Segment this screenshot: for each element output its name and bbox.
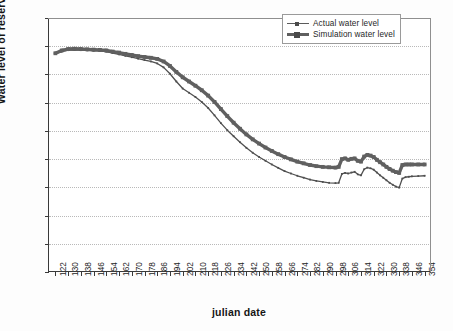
series-marker (360, 174, 362, 176)
series-marker (295, 160, 299, 164)
series-marker (238, 127, 242, 131)
x-tick-mark (221, 272, 222, 276)
series-marker (136, 54, 140, 58)
x-tick-mark (145, 272, 146, 276)
series-marker (181, 75, 185, 79)
x-tick-mark (272, 272, 273, 276)
series-marker (264, 146, 268, 150)
series-marker (232, 121, 236, 125)
series-marker (315, 164, 319, 168)
series-marker (405, 176, 407, 178)
x-tick-mark (310, 272, 311, 276)
series-marker (303, 177, 305, 179)
y-axis-title: Water level of reservial (m) (0, 0, 7, 104)
x-tick-mark (425, 272, 426, 276)
series-marker (206, 94, 210, 98)
x-tick-mark (361, 272, 362, 276)
series-marker (252, 152, 254, 154)
series-marker (137, 58, 139, 60)
series-marker (244, 133, 248, 137)
series-marker (347, 173, 349, 175)
x-tick-mark (170, 272, 171, 276)
series-marker (258, 156, 260, 158)
series-marker (277, 167, 279, 169)
series-marker (270, 149, 274, 153)
series-marker (351, 172, 353, 174)
series-marker (354, 171, 356, 173)
x-tick-mark (55, 272, 56, 276)
series-marker (226, 129, 228, 131)
legend-marker-actual-icon (287, 18, 309, 29)
x-tick-mark (68, 272, 69, 276)
x-tick-mark (234, 272, 235, 276)
x-tick-mark (208, 272, 209, 276)
series-marker (308, 163, 312, 167)
series-marker (60, 49, 64, 53)
series-marker (321, 165, 325, 169)
series-marker (344, 172, 346, 174)
chart-figure: Water level of reservial (m) 19219419619… (0, 0, 453, 331)
series-marker (182, 88, 184, 90)
series-marker (290, 173, 292, 175)
series-marker (233, 135, 235, 137)
x-tick-mark (412, 272, 413, 276)
series-marker (289, 157, 293, 161)
series-marker (335, 182, 337, 184)
series-marker (225, 114, 229, 118)
series-marker (327, 165, 331, 169)
legend-label-simulation: Simulation water level (313, 30, 395, 39)
series-marker (201, 101, 203, 103)
x-axis-title: julian date (48, 306, 430, 318)
series-marker (302, 161, 306, 165)
x-tick-mark (285, 272, 286, 276)
series-lines (49, 18, 431, 272)
series-marker (200, 88, 204, 92)
x-tick-mark (246, 272, 247, 276)
series-marker (424, 175, 426, 177)
series-marker (271, 164, 273, 166)
series-marker (296, 175, 298, 177)
series-marker (265, 160, 267, 162)
x-tick-mark (297, 272, 298, 276)
series-marker (370, 167, 372, 169)
series-marker (363, 168, 365, 170)
series-marker (284, 170, 286, 172)
legend-label-actual: Actual water level (313, 19, 379, 28)
series-marker (143, 55, 147, 59)
x-tick-mark (157, 272, 158, 276)
series-marker (239, 141, 241, 143)
series-marker (410, 163, 414, 167)
series-marker (73, 47, 77, 51)
series-marker (130, 53, 134, 57)
series-marker (416, 163, 420, 167)
series-marker (398, 187, 400, 189)
series-marker (195, 96, 197, 98)
plot-area: 192194196198200202204206208210 122130138… (48, 18, 430, 272)
series-marker (111, 50, 115, 54)
series-marker (379, 174, 381, 176)
series-marker (124, 52, 128, 56)
x-tick-mark (106, 272, 107, 276)
series-marker (408, 176, 410, 178)
series-marker (366, 167, 368, 169)
legend-marker-simulation-icon (287, 29, 309, 40)
series-marker (401, 178, 403, 180)
series-marker (98, 48, 102, 52)
series-marker (53, 51, 57, 55)
x-tick-mark (336, 272, 337, 276)
series-marker (257, 142, 261, 146)
series-marker (175, 81, 177, 83)
series-marker (207, 107, 209, 109)
series-marker (341, 173, 343, 175)
series-marker (411, 175, 413, 177)
series-marker (174, 70, 178, 74)
series-marker (397, 171, 401, 175)
series-marker (376, 172, 378, 174)
x-tick-mark (94, 272, 95, 276)
x-tick-mark (348, 272, 349, 276)
series-marker (117, 51, 121, 55)
series-marker (338, 182, 340, 184)
series-marker (395, 186, 397, 188)
series-marker (389, 182, 391, 184)
series-marker (316, 180, 318, 182)
